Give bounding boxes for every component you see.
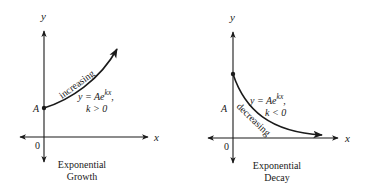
- growth-x-axis-label: x: [153, 131, 159, 143]
- growth-origin-label: 0: [35, 140, 40, 151]
- growth-y-axis-label: y: [40, 10, 46, 22]
- decay-y-axis-label: y: [229, 11, 235, 23]
- growth-equation: y = Aekx,: [77, 88, 114, 102]
- decay-condition: k < 0: [265, 107, 286, 118]
- decay-x-axis-label: x: [344, 132, 350, 144]
- decay-point-label: A: [220, 103, 228, 114]
- growth-intercept-point: [42, 106, 46, 110]
- growth-point-label: A: [32, 103, 40, 114]
- growth-caption-line1: Exponential: [58, 159, 107, 170]
- decay-caption-line2: Decay: [264, 172, 290, 183]
- decay-origin-label: 0: [224, 141, 229, 152]
- decay-caption-line1: Exponential: [253, 160, 302, 171]
- decay-intercept-point: [231, 72, 235, 76]
- growth-condition: k > 0: [86, 103, 107, 114]
- exponential-diagram: y x 0 A increasing y = Aekx, k > 0 Expon…: [0, 0, 367, 196]
- growth-caption-line2: Growth: [67, 171, 98, 182]
- growth-panel: y x 0 A increasing y = Aekx, k > 0 Expon…: [20, 10, 159, 182]
- decay-equation: y = Aekx,: [249, 92, 286, 106]
- decay-panel: y x 0 A decreasing y = Aekx, k < 0 Expon…: [208, 11, 350, 183]
